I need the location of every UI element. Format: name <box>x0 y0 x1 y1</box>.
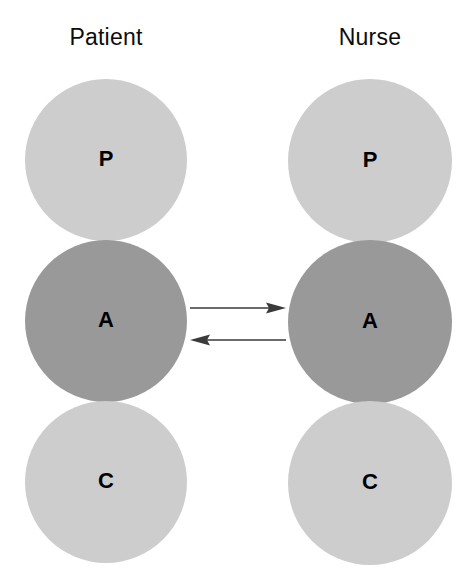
node-nurse-adult[interactable]: A <box>288 240 452 404</box>
connector-label-patient-to-nurse <box>0 0 1 1</box>
diagram-canvas: Patient Nurse P A C P A C <box>0 0 475 581</box>
node-patient-parent[interactable]: P <box>25 79 187 241</box>
node-label: C <box>98 470 114 492</box>
node-label: P <box>363 149 378 171</box>
connector-label-nurse-to-patient <box>0 0 1 1</box>
arrow-left-icon[interactable] <box>190 335 286 346</box>
arrow-right-icon[interactable] <box>190 303 286 314</box>
node-nurse-child[interactable]: C <box>288 401 452 565</box>
node-label: A <box>362 310 378 332</box>
node-label: A <box>98 309 114 331</box>
column-title-nurse: Nurse <box>288 24 452 51</box>
node-label: P <box>99 148 114 170</box>
node-patient-adult[interactable]: A <box>25 240 187 402</box>
node-nurse-parent[interactable]: P <box>288 79 452 243</box>
column-title-patient: Patient <box>25 24 187 51</box>
node-label: C <box>362 471 378 493</box>
transaction-arrows <box>188 292 288 356</box>
node-patient-child[interactable]: C <box>25 401 187 563</box>
